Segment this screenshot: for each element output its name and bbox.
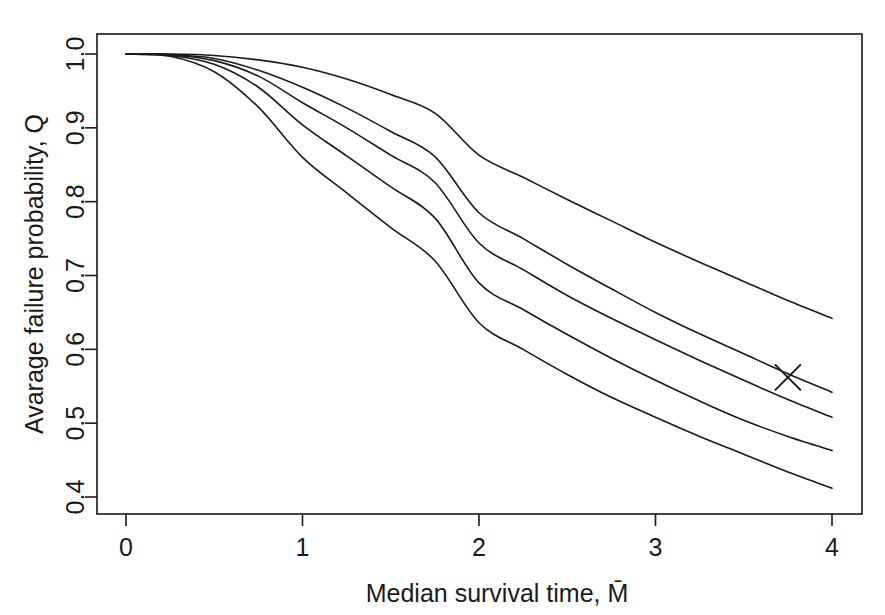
svg-text:Median survival time, M̄: Median survival time, M̄ — [366, 579, 629, 607]
x-axis-title: Median survival time, M̄ — [366, 579, 629, 607]
y-axis-title: Avarage failure probability, Q — [20, 114, 48, 434]
series-line-curve-5 — [126, 54, 832, 488]
data-series-group — [126, 54, 832, 488]
y-tick-label: 1.0 — [61, 37, 89, 72]
x-tick-label: 1 — [296, 533, 310, 561]
x-tick-label: 0 — [119, 533, 133, 561]
x-axis-ticks: 01234 — [119, 514, 839, 561]
plot-frame — [97, 34, 862, 514]
y-tick-label: 0.4 — [61, 480, 89, 515]
series-line-curve-1 — [126, 54, 832, 318]
series-line-curve-3 — [126, 54, 832, 417]
svg-text:Avarage failure probability, Q: Avarage failure probability, Q — [20, 114, 48, 434]
y-tick-label: 0.6 — [61, 332, 89, 367]
chart-figure: 01234 0.40.50.60.70.80.91.0 Median survi… — [0, 0, 885, 615]
y-tick-label: 0.8 — [61, 184, 89, 219]
series-line-curve-4 — [126, 54, 832, 450]
y-tick-label: 0.7 — [61, 258, 89, 293]
series-line-curve-2 — [126, 54, 832, 392]
y-tick-label: 0.5 — [61, 406, 89, 441]
x-tick-label: 4 — [825, 533, 839, 561]
chart-plot-svg: 01234 0.40.50.60.70.80.91.0 Median survi… — [0, 0, 885, 615]
x-tick-label: 2 — [472, 533, 486, 561]
y-axis-ticks: 0.40.50.60.70.80.91.0 — [61, 37, 97, 515]
x-tick-label: 3 — [649, 533, 663, 561]
y-tick-label: 0.9 — [61, 110, 89, 145]
